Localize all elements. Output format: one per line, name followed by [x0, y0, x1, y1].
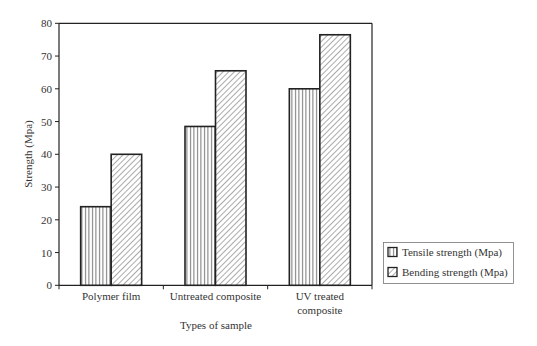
- bar-diagonal-lines: [111, 154, 141, 285]
- y-tick-label: 40: [41, 148, 53, 160]
- y-tick-label: 0: [47, 279, 53, 291]
- x-tick-label: composite: [297, 304, 342, 316]
- x-tick-label: UV treated: [296, 290, 345, 302]
- y-tick-label: 20: [41, 214, 53, 226]
- bar-diagonal-lines: [320, 35, 351, 286]
- x-tick-label: Untreated composite: [170, 290, 261, 302]
- bar-chart: 01020304050607080 Polymer filmUntreated …: [0, 0, 537, 346]
- x-tick-label: Polymer film: [82, 290, 141, 302]
- bar-vertical-lines: [185, 126, 216, 285]
- y-tick-label: 70: [41, 50, 53, 62]
- legend-label: Tensile strength (Mpa): [402, 246, 502, 259]
- legend-label: Bending strength (Mpa): [402, 266, 508, 279]
- y-axis-title: Strength (Mpa): [22, 120, 35, 188]
- y-tick-label: 30: [41, 181, 53, 193]
- x-axis: Polymer filmUntreated compositeUV treate…: [59, 285, 372, 316]
- y-tick-label: 80: [41, 17, 53, 29]
- legend-swatch-icon: [388, 268, 397, 277]
- y-axis: 01020304050607080: [41, 17, 59, 291]
- y-tick-label: 10: [41, 247, 53, 259]
- y-tick-label: 60: [41, 83, 53, 95]
- y-tick-label: 50: [41, 116, 53, 128]
- bar-diagonal-lines: [216, 71, 247, 286]
- bar-vertical-lines: [289, 89, 320, 285]
- bar-vertical-lines: [81, 207, 112, 286]
- bars: [81, 35, 351, 286]
- x-axis-title: Types of sample: [180, 319, 252, 331]
- legend: Tensile strength (Mpa)Bending strength (…: [384, 243, 514, 284]
- legend-swatch-icon: [388, 248, 397, 257]
